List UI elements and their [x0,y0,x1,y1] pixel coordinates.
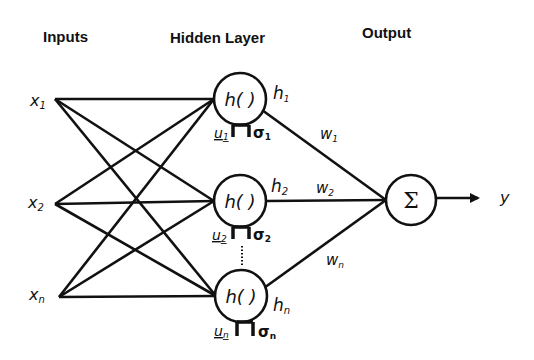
hidden-node-n: h( ) un σn hn [214,270,290,341]
bias-connector [233,125,249,137]
edge-hn-sum [264,200,386,288]
input-label-xn: xn [28,285,45,305]
sigma-sum-symbol: Σ [403,188,419,213]
weight-label-wn: wn [326,251,344,270]
u-label: u2 [212,227,227,244]
sigma-label: σn [258,323,276,341]
h-output-label: hn [273,295,290,316]
activation-function-label: h( ) [224,191,255,212]
hidden-node-1: h( ) u1 σ1 h1 [214,73,290,142]
h-output-label: h2 [271,176,288,197]
output-header: Output [362,24,411,41]
sigma-label: σ2 [253,226,271,244]
edge-h2-sum [267,200,386,201]
input-hidden-connections [55,99,216,297]
output-sum-node: Σ [386,175,436,225]
input-label-x1: x1 [29,91,46,111]
edge-xn-h1 [59,99,214,297]
input-label-x2: x2 [27,193,44,213]
weight-label-w2: w2 [316,179,334,198]
inputs-header: Inputs [43,28,88,45]
h-output-label: h1 [273,83,290,104]
activation-function-label: h( ) [225,286,256,307]
output-label-y: y [499,188,510,207]
weight-label-w1: w1 [320,125,338,144]
activation-function-label: h( ) [224,89,255,110]
u-label: un [214,323,229,340]
neural-network-diagram: Inputs Hidden Layer Output x1 x2 xn h( )… [0,0,534,360]
sigma-label: σ1 [253,124,271,142]
edge-xn-hn [59,296,216,297]
bias-connector [237,322,253,336]
hidden-layer-header: Hidden Layer [170,29,265,46]
bias-connector [233,227,249,239]
u-label: u1 [214,125,229,142]
hidden-node-2: h( ) u2 σ2 h2 [212,175,288,244]
